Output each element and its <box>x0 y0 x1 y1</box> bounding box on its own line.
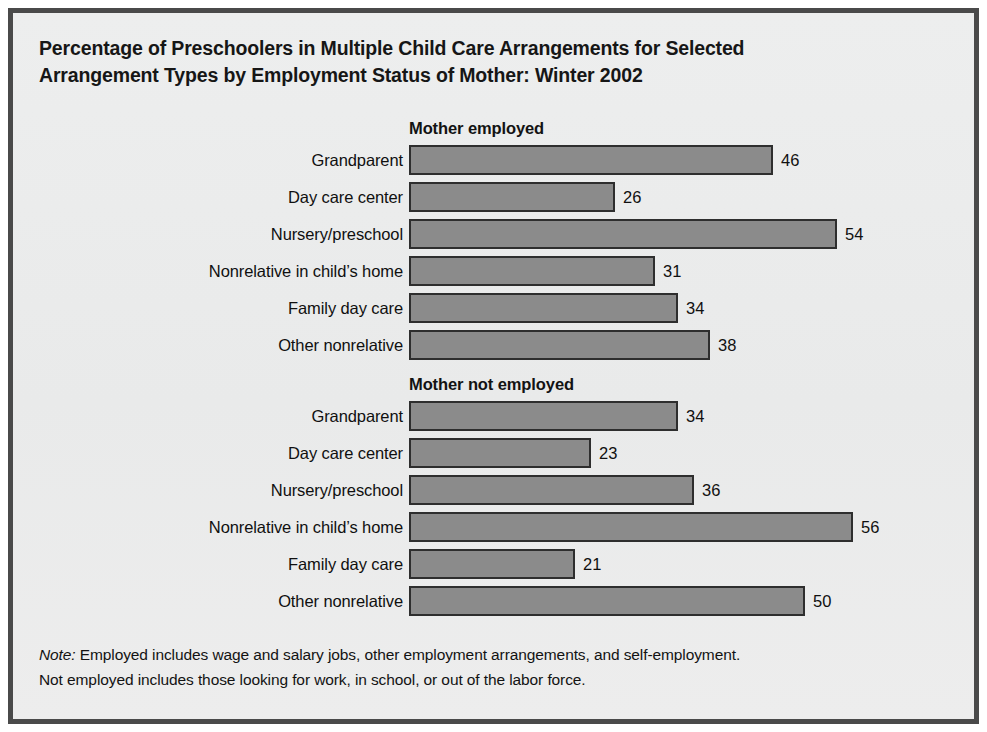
bar-category-label: Family day care <box>288 293 403 323</box>
chart-plot-area: Mother employedGrandparent46Day care cen… <box>13 117 974 629</box>
bar-row: Day care center23 <box>13 438 974 468</box>
bar-value-label: 36 <box>702 475 720 505</box>
chart-title-line-2: Arrangement Types by Employment Status o… <box>39 62 919 89</box>
bar-value-label: 34 <box>686 293 704 323</box>
bar-value-label: 31 <box>663 256 681 286</box>
chart-note: Note: Employed includes wage and salary … <box>39 642 949 692</box>
chart-title: Percentage of Preschoolers in Multiple C… <box>39 35 919 89</box>
bar-category-label: Nonrelative in child’s home <box>209 512 403 542</box>
bar-row: Grandparent46 <box>13 145 974 175</box>
bar <box>409 293 678 323</box>
bar-row: Nonrelative in child’s home31 <box>13 256 974 286</box>
bar-category-label: Family day care <box>288 549 403 579</box>
bar-row: Other nonrelative50 <box>13 586 974 616</box>
chart-note-line-2: Not employed includes those looking for … <box>39 667 949 692</box>
bar-value-label: 21 <box>583 549 601 579</box>
bar-category-label: Nursery/preschool <box>271 475 403 505</box>
bar-value-label: 38 <box>718 330 736 360</box>
chart-title-line-1: Percentage of Preschoolers in Multiple C… <box>39 35 919 62</box>
bar <box>409 438 591 468</box>
bar <box>409 256 655 286</box>
bar <box>409 145 773 175</box>
bar-category-label: Other nonrelative <box>278 330 403 360</box>
bar-row: Nonrelative in child’s home56 <box>13 512 974 542</box>
bar-category-label: Day care center <box>288 182 403 212</box>
chart-note-line-1: Note: Employed includes wage and salary … <box>39 642 949 667</box>
bar <box>409 219 837 249</box>
bar-category-label: Grandparent <box>311 401 403 431</box>
bar-row: Nursery/preschool36 <box>13 475 974 505</box>
bar <box>409 512 853 542</box>
group-header-1: Mother employed <box>409 119 544 138</box>
bar-category-label: Grandparent <box>311 145 403 175</box>
bar <box>409 401 678 431</box>
bar-row: Family day care21 <box>13 549 974 579</box>
bar-value-label: 34 <box>686 401 704 431</box>
bar <box>409 586 805 616</box>
bar-value-label: 50 <box>813 586 831 616</box>
bar-value-label: 26 <box>623 182 641 212</box>
bar-value-label: 46 <box>781 145 799 175</box>
note-label: Note: <box>39 646 76 663</box>
bar-category-label: Day care center <box>288 438 403 468</box>
bar-row: Day care center26 <box>13 182 974 212</box>
bar <box>409 330 710 360</box>
bar-category-label: Nursery/preschool <box>271 219 403 249</box>
chart-figure: Percentage of Preschoolers in Multiple C… <box>8 8 979 724</box>
bar-category-label: Other nonrelative <box>278 586 403 616</box>
group-header-2: Mother not employed <box>409 375 574 394</box>
chart-panel: Percentage of Preschoolers in Multiple C… <box>13 13 974 719</box>
bar-row: Grandparent34 <box>13 401 974 431</box>
bar-value-label: 23 <box>599 438 617 468</box>
bar-value-label: 54 <box>845 219 863 249</box>
note-text-1: Employed includes wage and salary jobs, … <box>76 646 741 663</box>
bar-value-label: 56 <box>861 512 879 542</box>
bar-category-label: Nonrelative in child’s home <box>209 256 403 286</box>
bar-row: Other nonrelative38 <box>13 330 974 360</box>
bar-row: Nursery/preschool54 <box>13 219 974 249</box>
bar <box>409 549 575 579</box>
bar-row: Family day care34 <box>13 293 974 323</box>
bar <box>409 475 694 505</box>
bar <box>409 182 615 212</box>
